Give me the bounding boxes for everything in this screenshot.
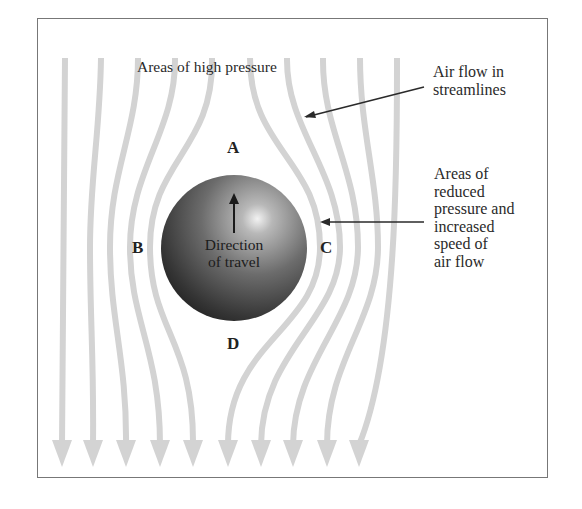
streamline-pointer-arrowhead-icon (304, 111, 316, 118)
label-point-c: C (320, 238, 332, 258)
streamline-2 (90, 58, 101, 445)
streamline-arrowheads (52, 440, 369, 467)
label-direction-of-travel: Direction of travel (180, 236, 288, 270)
arrowhead-icon (251, 440, 271, 467)
label-point-a: A (227, 138, 239, 158)
arrowhead-icon (183, 440, 203, 467)
arrowhead-icon (317, 440, 337, 467)
label-high-pressure: Areas of high pressure (137, 58, 277, 76)
arrowhead-icon (116, 440, 136, 467)
label-air-flow-streamlines: Air flow in streamlines (433, 63, 506, 99)
arrowhead-icon (150, 440, 170, 467)
arrowhead-icon (83, 440, 103, 467)
label-reduced-pressure: Areas of reduced pressure and increased … (434, 165, 514, 270)
arrowhead-icon (283, 440, 303, 467)
label-point-d: D (227, 334, 239, 354)
arrowhead-icon (349, 440, 369, 467)
streamline-9 (327, 58, 378, 445)
arrowhead-icon (52, 440, 72, 467)
reduced-pressure-arrowhead-icon (320, 218, 330, 226)
arrowhead-icon (218, 440, 238, 467)
label-point-b: B (132, 238, 143, 258)
streamline-1 (62, 58, 65, 445)
